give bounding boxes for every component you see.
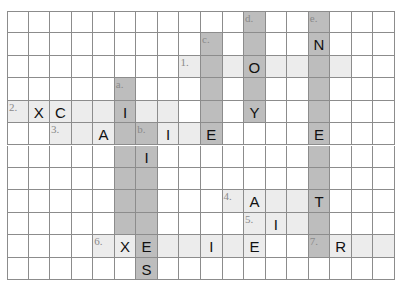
grid-cell xyxy=(266,11,288,33)
grid-cell xyxy=(7,213,29,235)
grid-cell[interactable] xyxy=(309,168,331,190)
grid-cell[interactable] xyxy=(158,101,180,123)
grid-cell[interactable] xyxy=(352,235,374,257)
grid-cell xyxy=(158,33,180,55)
clue-number-down: a. xyxy=(116,78,124,90)
grid-cell[interactable]: E xyxy=(244,235,266,257)
grid-cell[interactable] xyxy=(244,78,266,100)
grid-cell[interactable]: I xyxy=(115,101,137,123)
grid-cell[interactable]: E xyxy=(136,235,158,257)
grid-cell xyxy=(373,56,395,78)
grid-cell xyxy=(330,11,352,33)
clue-number-down: e. xyxy=(310,12,318,24)
grid-cell[interactable] xyxy=(201,101,223,123)
grid-cell[interactable] xyxy=(287,213,309,235)
grid-cell[interactable] xyxy=(72,123,94,145)
grid-cell[interactable]: N xyxy=(309,33,331,55)
grid-cell[interactable] xyxy=(309,213,331,235)
grid-cell[interactable]: 2. xyxy=(7,101,29,123)
grid-cell[interactable]: 4. xyxy=(223,190,245,212)
clue-number-down: b. xyxy=(137,123,145,135)
grid-cell xyxy=(352,78,374,100)
grid-cell[interactable] xyxy=(115,168,137,190)
grid-cell[interactable] xyxy=(115,190,137,212)
grid-cell[interactable]: E xyxy=(201,123,223,145)
grid-cell[interactable] xyxy=(136,213,158,235)
grid-cell[interactable] xyxy=(136,168,158,190)
grid-cell xyxy=(29,146,51,168)
grid-cell[interactable]: 3. xyxy=(50,123,72,145)
grid-cell[interactable]: I xyxy=(266,213,288,235)
grid-cell xyxy=(93,168,115,190)
grid-cell[interactable] xyxy=(309,78,331,100)
grid-cell xyxy=(179,190,201,212)
grid-cell[interactable] xyxy=(201,56,223,78)
grid-cell[interactable] xyxy=(201,78,223,100)
grid-cell[interactable] xyxy=(223,235,245,257)
grid-cell[interactable] xyxy=(179,235,201,257)
grid-cell[interactable] xyxy=(309,146,331,168)
grid-cell[interactable]: a. xyxy=(115,78,137,100)
grid-cell[interactable]: 6. xyxy=(93,235,115,257)
grid-cell xyxy=(201,146,223,168)
grid-cell[interactable]: 7. xyxy=(309,235,331,257)
grid-cell[interactable] xyxy=(330,56,352,78)
grid-cell[interactable] xyxy=(72,101,94,123)
grid-cell[interactable] xyxy=(244,33,266,55)
grid-cell[interactable] xyxy=(309,101,331,123)
grid-cell[interactable] xyxy=(158,235,180,257)
grid-cell[interactable]: E xyxy=(309,123,331,145)
grid-cell xyxy=(29,258,51,280)
grid-cell[interactable] xyxy=(115,213,137,235)
grid-cell[interactable]: X xyxy=(115,235,137,257)
grid-cell[interactable]: X xyxy=(29,101,51,123)
grid-cell xyxy=(72,190,94,212)
grid-cell xyxy=(373,123,395,145)
grid-cell[interactable]: C xyxy=(50,101,72,123)
grid-cell xyxy=(309,258,331,280)
grid-cell[interactable]: b. xyxy=(136,123,158,145)
grid-cell[interactable] xyxy=(373,235,395,257)
grid-cell[interactable]: O xyxy=(244,56,266,78)
grid-cell[interactable] xyxy=(93,101,115,123)
grid-cell[interactable] xyxy=(179,123,201,145)
grid-cell[interactable] xyxy=(266,56,288,78)
grid-cell[interactable] xyxy=(287,190,309,212)
grid-cell[interactable]: I xyxy=(158,123,180,145)
grid-cell[interactable]: 1. xyxy=(179,56,201,78)
grid-cell[interactable] xyxy=(309,56,331,78)
grid-cell[interactable] xyxy=(136,101,158,123)
grid-cell[interactable]: A xyxy=(244,190,266,212)
clue-number-across: 2. xyxy=(9,101,17,113)
cell-letter: A xyxy=(244,193,265,210)
grid-cell[interactable]: e. xyxy=(309,11,331,33)
cell-letter: I xyxy=(201,238,222,255)
grid-cell[interactable]: I xyxy=(136,146,158,168)
grid-cell xyxy=(223,33,245,55)
grid-cell[interactable]: T xyxy=(309,190,331,212)
grid-cell xyxy=(330,213,352,235)
grid-cell[interactable]: S xyxy=(136,258,158,280)
grid-cell[interactable]: I xyxy=(201,235,223,257)
clue-number-across: 3. xyxy=(51,123,59,135)
grid-cell[interactable] xyxy=(136,190,158,212)
grid-cell[interactable]: c. xyxy=(201,33,223,55)
grid-cell xyxy=(352,146,374,168)
cell-letter: E xyxy=(244,238,265,255)
grid-cell xyxy=(179,258,201,280)
grid-cell[interactable]: R xyxy=(330,235,352,257)
grid-cell xyxy=(50,56,72,78)
grid-cell[interactable]: d. xyxy=(244,11,266,33)
grid-cell[interactable] xyxy=(223,56,245,78)
grid-cell[interactable] xyxy=(287,56,309,78)
grid-cell xyxy=(223,258,245,280)
grid-cell xyxy=(373,168,395,190)
grid-cell xyxy=(244,123,266,145)
grid-cell[interactable]: A xyxy=(93,123,115,145)
grid-cell[interactable]: 5. xyxy=(244,213,266,235)
grid-cell xyxy=(158,168,180,190)
grid-cell[interactable] xyxy=(115,123,137,145)
grid-cell[interactable] xyxy=(266,190,288,212)
grid-cell[interactable]: Y xyxy=(244,101,266,123)
grid-cell[interactable] xyxy=(115,146,137,168)
